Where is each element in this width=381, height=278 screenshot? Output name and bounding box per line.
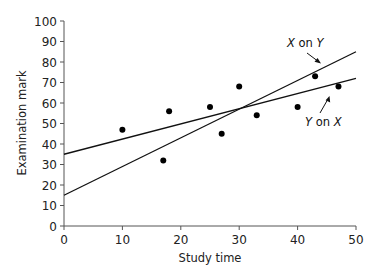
data-point (236, 84, 242, 90)
data-point (219, 131, 225, 137)
y-tick-label: 0 (49, 220, 57, 234)
data-point (295, 104, 301, 110)
y-tick-label: 100 (34, 15, 57, 29)
y-tick-label: 40 (42, 138, 57, 152)
y-tick-label: 70 (42, 76, 57, 90)
x-tick-label: 0 (60, 233, 68, 247)
annotation-x-on-y: X on Y (286, 36, 325, 64)
data-point (160, 157, 166, 163)
data-point (166, 108, 172, 114)
y-tick-label: 10 (42, 199, 57, 213)
annotation-x-on-y-label: X on Y (286, 36, 325, 50)
data-point (254, 112, 260, 118)
x-tick-label: 30 (232, 233, 247, 247)
y-tick-label: 20 (42, 179, 57, 193)
data-point (312, 73, 318, 79)
data-point (119, 127, 125, 133)
x-axis: 01020304050 (60, 226, 363, 247)
y-axis-title: Examination mark (15, 70, 29, 176)
annotation-y-on-x-label: Y on X (305, 115, 343, 129)
x-axis-title: Study time (179, 251, 242, 265)
regression-chart: 0102030405060708090100 01020304050 Study… (0, 0, 381, 278)
x-tick-label: 50 (348, 233, 363, 247)
y-axis: 0102030405060708090100 (34, 15, 64, 234)
y-tick-label: 60 (42, 97, 57, 111)
y-tick-label: 30 (42, 158, 57, 172)
arrow-icon (320, 99, 328, 113)
x-tick-label: 10 (115, 233, 130, 247)
y-tick-label: 80 (42, 56, 57, 70)
y-tick-label: 50 (42, 117, 57, 131)
data-point (207, 104, 213, 110)
x-tick-label: 40 (290, 233, 305, 247)
data-point (335, 84, 341, 90)
annotation-y-on-x: Y on X (305, 96, 343, 129)
y-tick-label: 90 (42, 35, 57, 49)
x-tick-label: 20 (173, 233, 188, 247)
